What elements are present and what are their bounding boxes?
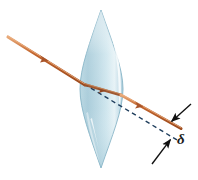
emergent-ray-group bbox=[121, 94, 181, 128]
lens-displacement-figure: δ bbox=[0, 0, 198, 180]
emergent-ray-gloss bbox=[121, 94, 181, 128]
displacement-indicator-group bbox=[152, 104, 191, 164]
optics-diagram-canvas: δ bbox=[0, 0, 198, 180]
incident-ray-group bbox=[8, 36, 85, 85]
emergent-ray bbox=[121, 95, 181, 129]
upper-indicator-arrow bbox=[172, 104, 191, 121]
delta-displacement-label: δ bbox=[177, 131, 185, 147]
lower-indicator-arrow bbox=[152, 140, 170, 164]
